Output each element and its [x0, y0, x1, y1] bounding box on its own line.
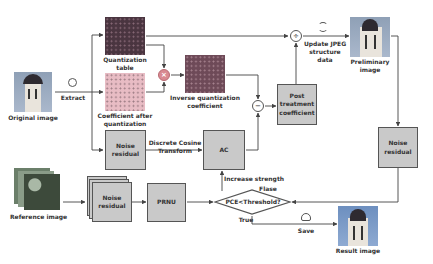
- false-label: Flase: [258, 185, 278, 193]
- result-image-label: Result image: [334, 247, 382, 255]
- original-image: [14, 72, 52, 112]
- update-jpeg-label: Update JPEG structure data: [302, 40, 348, 63]
- inverse-quantization-coefficient-grid: [185, 55, 225, 93]
- subtract-operator: −: [252, 100, 264, 112]
- reference-image-label: Reference image: [10, 213, 66, 221]
- post-treatment-coefficient-box: Post treatment coefficient: [277, 84, 317, 125]
- multiply-operator: ×: [158, 69, 170, 81]
- original-image-label: Original image: [4, 114, 62, 122]
- quantization-table-label: Quantization table: [98, 56, 152, 72]
- ac-box: AC: [203, 130, 245, 170]
- preliminary-image: [350, 17, 390, 57]
- preliminary-image-label: Preliminary image: [350, 58, 390, 74]
- increase-strength-label: Increase strength: [224, 175, 280, 183]
- inverse-quantization-coefficient-label: Inverse quantization coefficient: [170, 94, 240, 110]
- dct-label: Discrete Cosine Transform: [148, 139, 202, 155]
- decision-label: PCE<Threshold?: [222, 198, 284, 206]
- coefficient-after-quantization-label: Coefficient after quantization: [96, 112, 154, 128]
- save-label: Save: [296, 227, 316, 235]
- quantization-table-grid: [105, 17, 145, 55]
- extract-label: Extract: [60, 94, 86, 102]
- result-image: [338, 206, 378, 246]
- true-label: True: [238, 216, 254, 224]
- coefficient-after-quantization-grid: [105, 73, 145, 111]
- reference-image-stack: [14, 168, 62, 212]
- noise-residual-top-box: Noise residual: [105, 130, 146, 170]
- noise-residual-stack-front: Noise residual: [92, 182, 132, 222]
- divide-operator: ÷: [290, 30, 302, 42]
- prnu-box: PRNU: [147, 183, 186, 222]
- cycle-icon: [68, 78, 77, 87]
- noise-residual-right-box: Noise residual: [378, 127, 418, 168]
- cloud-upload-icon: [301, 213, 311, 221]
- refresh-icon: [318, 22, 328, 32]
